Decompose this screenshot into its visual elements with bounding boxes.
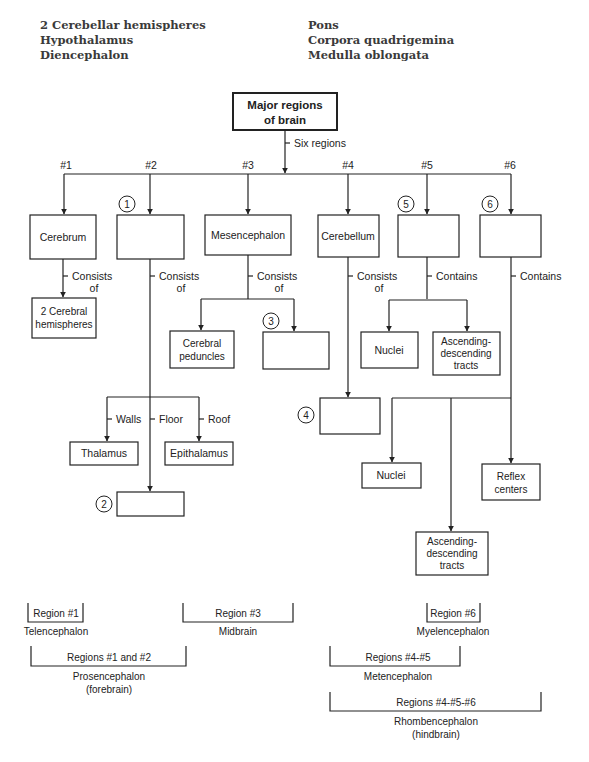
edge-label: Contains bbox=[436, 270, 477, 282]
root-node: Major regions of brain bbox=[233, 93, 337, 130]
svg-text:descending: descending bbox=[440, 348, 491, 359]
grouping-region1: Region #1 Telencephalon bbox=[24, 603, 89, 637]
svg-text:tracts: tracts bbox=[440, 560, 464, 571]
region-number: #6 bbox=[504, 159, 516, 171]
svg-text:Myelencephalon: Myelencephalon bbox=[417, 626, 490, 637]
blank-marker: 6 bbox=[487, 199, 493, 210]
mesencephalon-blank: 3 bbox=[263, 313, 329, 369]
svg-text:Region #3: Region #3 bbox=[215, 608, 261, 619]
svg-text:Thalamus: Thalamus bbox=[81, 447, 127, 459]
cerebrum-child: 2 Cerebral hemispheres bbox=[32, 298, 96, 338]
edge-label: Floor bbox=[159, 413, 183, 425]
svg-text:Reflex: Reflex bbox=[497, 471, 525, 482]
region-number: #5 bbox=[421, 159, 433, 171]
svg-text:Region #1: Region #1 bbox=[33, 608, 79, 619]
region-number: #4 bbox=[342, 159, 354, 171]
edge-label: Consists bbox=[159, 270, 199, 282]
blank-marker: 4 bbox=[303, 410, 309, 421]
region-box-5-blank: 5 bbox=[398, 196, 459, 257]
grouping-region3: Region #3 Midbrain bbox=[183, 603, 293, 637]
edge-label: Consists bbox=[257, 270, 297, 282]
svg-text:Cerebrum: Cerebrum bbox=[40, 231, 87, 243]
grouping-region6: Region #6 Myelencephalon bbox=[417, 603, 490, 637]
region-number: #1 bbox=[60, 159, 72, 171]
svg-text:2 Cerebral: 2 Cerebral bbox=[41, 306, 88, 317]
region-number: #3 bbox=[242, 159, 254, 171]
svg-text:Cerebral: Cerebral bbox=[183, 338, 221, 349]
svg-text:Epithalamus: Epithalamus bbox=[170, 447, 228, 459]
svg-text:centers: centers bbox=[495, 484, 528, 495]
svg-text:Region #6: Region #6 bbox=[430, 608, 476, 619]
svg-text:(hindbrain): (hindbrain) bbox=[412, 729, 460, 740]
tracts-box-region6: Ascending- descending tracts bbox=[416, 532, 488, 575]
region2-floor-blank: 2 bbox=[96, 492, 184, 516]
edge-label: Contains bbox=[520, 270, 561, 282]
epithalamus-box: Epithalamus bbox=[165, 442, 233, 465]
svg-text:(forebrain): (forebrain) bbox=[86, 684, 132, 695]
svg-text:Nuclei: Nuclei bbox=[376, 469, 405, 481]
svg-text:Telencephalon: Telencephalon bbox=[24, 626, 89, 637]
svg-text:tracts: tracts bbox=[454, 360, 478, 371]
svg-text:Regions #4-#5-#6: Regions #4-#5-#6 bbox=[396, 697, 476, 708]
cerebral-peduncles-box: Cerebral peduncles bbox=[170, 331, 234, 368]
region-number: #2 bbox=[145, 159, 157, 171]
edge-label: of bbox=[90, 282, 99, 294]
svg-text:Regions #1 and #2: Regions #1 and #2 bbox=[67, 652, 151, 663]
thalamus-box: Thalamus bbox=[70, 442, 138, 465]
svg-text:hemispheres: hemispheres bbox=[35, 319, 92, 330]
edge-label: Consists bbox=[357, 270, 397, 282]
edge-label: of bbox=[177, 282, 186, 294]
svg-text:Regions #4-#5: Regions #4-#5 bbox=[365, 652, 430, 663]
svg-text:peduncles: peduncles bbox=[179, 351, 225, 362]
region-box-1: Cerebrum bbox=[30, 215, 96, 259]
region-box-3: Mesencephalon bbox=[205, 215, 291, 255]
grouping-regions-1-2: Regions #1 and #2 Prosencephalon (forebr… bbox=[31, 646, 186, 695]
svg-text:Ascending-: Ascending- bbox=[441, 336, 491, 347]
blank-marker: 3 bbox=[268, 316, 274, 327]
reflex-centers-box: Reflex centers bbox=[482, 464, 540, 500]
root-edge-label: Six regions bbox=[294, 137, 346, 149]
edge-label: Consists bbox=[72, 270, 112, 282]
blank-marker: 5 bbox=[403, 199, 409, 210]
edge-label: Walls bbox=[116, 413, 141, 425]
edge-label: Roof bbox=[208, 413, 230, 425]
edge-label: of bbox=[375, 282, 384, 294]
svg-text:Rhombencephalon: Rhombencephalon bbox=[394, 716, 478, 727]
tracts-box-region5: Ascending- descending tracts bbox=[433, 332, 500, 375]
svg-text:Cerebellum: Cerebellum bbox=[321, 230, 375, 242]
cerebellum-blank: 4 bbox=[298, 398, 380, 434]
blank-marker: 1 bbox=[124, 199, 130, 210]
grouping-regions-4-5: Regions #4-#5 Metencephalon bbox=[330, 646, 460, 682]
svg-text:descending: descending bbox=[426, 548, 477, 559]
svg-text:Prosencephalon: Prosencephalon bbox=[73, 671, 145, 682]
root-label-line1: Major regions bbox=[247, 99, 322, 111]
svg-text:Midbrain: Midbrain bbox=[219, 626, 257, 637]
nuclei-box-region6: Nuclei bbox=[362, 463, 421, 488]
blank-marker: 2 bbox=[101, 499, 107, 510]
svg-text:Nuclei: Nuclei bbox=[374, 344, 403, 356]
nuclei-box-region5: Nuclei bbox=[361, 332, 418, 368]
root-label-line2: of brain bbox=[264, 114, 306, 126]
svg-text:Mesencephalon: Mesencephalon bbox=[211, 229, 285, 241]
region-box-4: Cerebellum bbox=[318, 215, 379, 257]
svg-text:Ascending-: Ascending- bbox=[427, 536, 477, 547]
grouping-regions-4-5-6: Regions #4-#5-#6 Rhombencephalon (hindbr… bbox=[330, 692, 541, 740]
svg-text:Metencephalon: Metencephalon bbox=[364, 671, 432, 682]
edge-label: of bbox=[275, 282, 284, 294]
brain-regions-diagram: Major regions of brain Six regions #1 #2… bbox=[0, 0, 589, 762]
